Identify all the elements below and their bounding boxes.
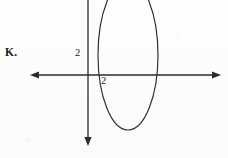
- figure-container: K. 2 2: [0, 0, 228, 158]
- x-axis-right-arrowhead: [212, 71, 221, 78]
- x-axis-left-arrowhead: [30, 71, 39, 78]
- y-axis-tick-label-2: 2: [75, 48, 80, 59]
- answer-choice-label: K.: [5, 47, 17, 59]
- ellipse-curve: [98, 0, 158, 130]
- coordinate-plane-figure: [0, 0, 228, 158]
- x-axis-tick-label-2: 2: [101, 76, 106, 87]
- y-axis-down-arrowhead: [84, 137, 91, 146]
